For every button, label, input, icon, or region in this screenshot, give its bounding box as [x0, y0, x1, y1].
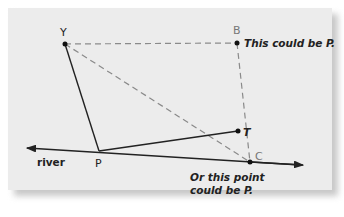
point-c	[248, 160, 253, 165]
note-c-line2: could be P.	[190, 184, 253, 196]
label-p: P	[95, 157, 102, 170]
geometry-diagram: Y B P T C This could be P. Or this point…	[0, 0, 344, 217]
dashed-line-bc	[237, 43, 250, 162]
label-y: Y	[59, 26, 67, 39]
label-c: C	[255, 150, 263, 163]
river-label: river	[37, 156, 66, 168]
dashed-line-yc	[65, 44, 250, 162]
point-b	[235, 41, 240, 46]
point-y	[63, 42, 68, 47]
dashed-line-yb	[65, 43, 237, 44]
segment-yp	[65, 44, 99, 151]
label-t: T	[243, 126, 252, 139]
point-t	[236, 129, 241, 134]
note-c-line1: Or this point	[190, 171, 266, 183]
note-b: This could be P.	[244, 37, 335, 49]
label-b: B	[233, 24, 241, 37]
